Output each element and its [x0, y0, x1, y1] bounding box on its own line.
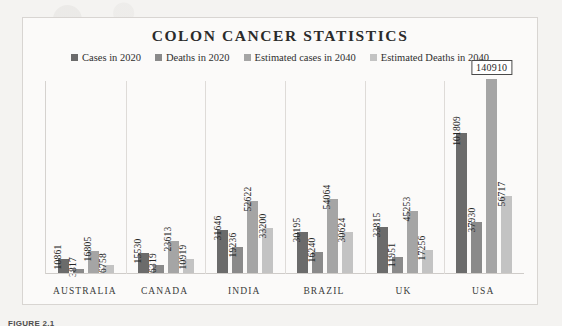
bar-value-label: 11951	[387, 243, 397, 267]
bar-wrapper: 17256	[422, 81, 433, 274]
bar[interactable]: 56717	[501, 196, 512, 274]
bar-value-label: 16805	[83, 236, 93, 261]
bar[interactable]: 37930	[471, 222, 482, 274]
bar-wrapper: 10919	[183, 81, 194, 274]
bar-value-label: 30624	[337, 217, 347, 242]
bar-value-label: 23613	[163, 227, 173, 252]
bar-wrapper: 30624	[342, 81, 353, 274]
bar-wrapper: 10861	[58, 81, 69, 274]
bar-wrapper: 56717	[501, 81, 512, 274]
bar-wrapper: 33815	[377, 81, 388, 274]
bar-group: 31646192365262233200	[205, 81, 285, 274]
legend-swatch-icon	[71, 54, 78, 61]
chart-container: COLON CANCER STATISTICS Cases in 2020Dea…	[22, 17, 538, 305]
group-separator	[126, 81, 127, 274]
bar-wrapper: 31646	[217, 81, 228, 274]
bar-wrapper: 6758	[103, 81, 114, 274]
bar[interactable]: 33815	[377, 227, 388, 274]
chart-legend: Cases in 2020Deaths in 2020Estimated cas…	[23, 52, 537, 63]
bar-value-label: 15530	[133, 238, 143, 263]
bar-value-label: 10861	[53, 245, 63, 270]
figure-caption: FIGURE 2.1	[8, 319, 55, 326]
x-axis-labels: AUSTRALIACANADAINDIABRAZILUKUSA	[45, 286, 523, 296]
bar-value-label: 17256	[417, 236, 427, 261]
legend-item[interactable]: Cases in 2020	[71, 52, 141, 63]
bar-wrapper: 11951	[392, 81, 403, 274]
bar-value-label: 16240	[307, 237, 317, 262]
bar-wrapper: 15530	[138, 81, 149, 274]
legend-swatch-icon	[370, 54, 377, 61]
group-separator	[285, 81, 286, 274]
group-separator	[444, 81, 445, 274]
legend-label: Deaths in 2020	[166, 52, 230, 63]
bar[interactable]: 30624	[342, 232, 353, 274]
bar[interactable]: 101809	[456, 133, 467, 274]
bar-value-label: 101809	[452, 116, 462, 146]
x-axis-tick-label: UK	[364, 286, 444, 296]
bar-wrapper: 23613	[168, 81, 179, 274]
x-axis-tick-label: USA	[443, 286, 523, 296]
bar[interactable]: 140910	[486, 79, 497, 274]
bar-value-label: 37930	[467, 207, 477, 232]
bar-group: 1018093793014091056717	[444, 81, 524, 274]
bar-value-label: 30195	[292, 218, 302, 243]
bar-wrapper: 45253	[407, 81, 418, 274]
bar-wrapper: 101809	[456, 81, 467, 274]
plot-area: 1086138171680567581553063192361310919316…	[45, 81, 523, 274]
bar[interactable]: 45253	[407, 211, 418, 274]
bar[interactable]: 23613	[168, 241, 179, 274]
bar-wrapper: 52622	[247, 81, 258, 274]
x-axis-tick-label: AUSTRALIA	[45, 286, 125, 296]
bar[interactable]: 52622	[247, 201, 258, 274]
chart-title: COLON CANCER STATISTICS	[23, 27, 537, 45]
bar-wrapper: 140910	[486, 81, 497, 274]
bar-group: 108613817168056758	[46, 81, 126, 274]
bar-group: 1553063192361310919	[126, 81, 206, 274]
bar[interactable]: 11951	[392, 257, 403, 274]
legend-label: Cases in 2020	[82, 52, 141, 63]
bar-value-label: 54064	[322, 185, 332, 210]
legend-item[interactable]: Estimated cases in 2040	[244, 52, 356, 63]
bar[interactable]: 10919	[183, 259, 194, 274]
group-separator	[205, 81, 206, 274]
bar-wrapper: 19236	[232, 81, 243, 274]
bar-value-label: 10919	[178, 245, 188, 270]
legend-label: Estimated cases in 2040	[255, 52, 356, 63]
legend-swatch-icon	[244, 54, 251, 61]
x-axis-tick-label: INDIA	[204, 286, 284, 296]
bar-wrapper: 37930	[471, 81, 482, 274]
bar-value-label: 33200	[258, 214, 268, 239]
bar-value-label: 56717	[497, 181, 507, 206]
bar-wrapper: 16240	[312, 81, 323, 274]
bar-value-label: 45253	[402, 197, 412, 222]
bar-value-label: 31646	[213, 216, 223, 241]
bar-value-label: 6758	[98, 253, 108, 273]
bar-wrapper: 6319	[153, 81, 164, 274]
bar[interactable]: 19236	[232, 247, 243, 274]
bar[interactable]: 33200	[262, 228, 273, 274]
bar[interactable]: 17256	[422, 250, 433, 274]
bar-wrapper: 33200	[262, 81, 273, 274]
legend-item[interactable]: Deaths in 2020	[155, 52, 230, 63]
bar-value-label: 52622	[243, 187, 253, 212]
bar-value-label: 33815	[372, 213, 382, 238]
legend-swatch-icon	[155, 54, 162, 61]
bar-wrapper: 16805	[88, 81, 99, 274]
bar-value-label-highlighted: 140910	[471, 60, 512, 75]
bar[interactable]: 16240	[312, 252, 323, 274]
bar-wrapper: 54064	[327, 81, 338, 274]
bar-value-label: 19236	[228, 233, 238, 258]
bar-group: 33815119514525317256	[365, 81, 445, 274]
bar-group: 30195162405406430624	[285, 81, 365, 274]
group-separator	[365, 81, 366, 274]
x-axis-tick-label: CANADA	[125, 286, 205, 296]
bar-value-label: 6319	[148, 253, 158, 273]
bar[interactable]: 15530	[138, 253, 149, 274]
bar[interactable]: 31646	[217, 230, 228, 274]
x-axis-tick-label: BRAZIL	[284, 286, 364, 296]
